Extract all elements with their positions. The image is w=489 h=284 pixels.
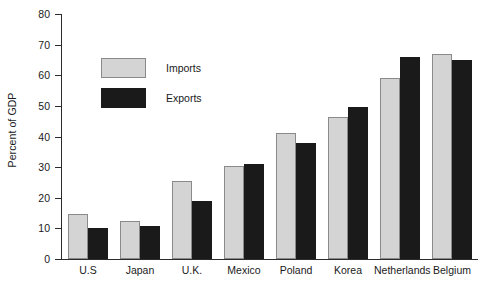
bar-imports-japan — [120, 221, 140, 259]
bar-group — [270, 14, 322, 259]
y-axis-tick-label-text: 70 — [24, 40, 50, 50]
x-axis-label-poland: Poland — [270, 264, 322, 276]
y-axis-tick — [55, 259, 61, 260]
y-axis-tick-label: 70 — [24, 40, 50, 50]
y-axis-tick — [55, 14, 61, 15]
bar-exports-japan — [140, 226, 160, 259]
legend-label-imports: Imports — [166, 62, 201, 74]
y-axis-tick-label-text: 40 — [24, 132, 50, 142]
x-axis-label-netherlands: Netherlands — [374, 264, 426, 276]
plot-area — [62, 14, 478, 259]
x-axis-label-uk: U.K. — [166, 264, 218, 276]
y-axis-tick — [55, 45, 61, 46]
x-axis-line — [61, 259, 478, 260]
y-axis-tick-label: 10 — [24, 223, 50, 233]
legend-item-imports: Imports — [101, 58, 201, 78]
bar-group — [322, 14, 374, 259]
y-axis-tick-label-text: 30 — [24, 162, 50, 172]
bar-exports-poland — [296, 143, 316, 259]
bar-imports-poland — [276, 133, 296, 259]
bar-imports-mexico — [224, 166, 244, 259]
bar-group — [166, 14, 218, 259]
y-axis-tick-label: 80 — [24, 9, 50, 19]
y-axis-tick-label: 20 — [24, 193, 50, 203]
bar-group — [62, 14, 114, 259]
exports-swatch-icon — [101, 88, 146, 108]
bar-group — [218, 14, 270, 259]
x-axis-label-us: U.S — [62, 264, 114, 276]
y-axis-tick — [55, 106, 61, 107]
y-axis-tick — [55, 198, 61, 199]
y-axis-tick-label-text: 20 — [24, 193, 50, 203]
y-axis-tick — [55, 137, 61, 138]
y-axis-tick-label-text: 50 — [24, 101, 50, 111]
y-axis-tick-label: 0 — [24, 254, 50, 264]
x-axis-label-belgium: Belgium — [426, 264, 478, 276]
y-axis-tick-label: 30 — [24, 162, 50, 172]
bar-exports-korea — [348, 107, 368, 259]
x-axis-label-mexico: Mexico — [218, 264, 270, 276]
y-axis-tick-label-text: 0 — [24, 254, 50, 264]
y-axis-tick — [55, 167, 61, 168]
y-axis-title: Percent of GDP — [2, 0, 22, 259]
legend-item-exports: Exports — [101, 88, 202, 108]
y-axis-tick — [55, 228, 61, 229]
x-axis-label-japan: Japan — [114, 264, 166, 276]
bar-exports-netherlands — [400, 57, 420, 259]
y-axis-tick-label: 60 — [24, 70, 50, 80]
bar-group — [114, 14, 166, 259]
bar-imports-korea — [328, 117, 348, 259]
bar-exports-mexico — [244, 164, 264, 259]
bar-imports-us — [68, 214, 88, 259]
bar-imports-belgium — [432, 54, 452, 259]
bar-imports-uk — [172, 181, 192, 259]
y-axis-title-text: Percent of GDP — [6, 92, 18, 167]
bar-exports-us — [88, 228, 108, 259]
y-axis-tick-label: 50 — [24, 101, 50, 111]
y-axis-tick — [55, 75, 61, 76]
bar-imports-netherlands — [380, 78, 400, 259]
bar-group — [374, 14, 426, 259]
bar-exports-uk — [192, 201, 212, 259]
legend-label-exports: Exports — [166, 92, 202, 104]
y-axis-tick-label-text: 10 — [24, 223, 50, 233]
bar-chart: Percent of GDP 01020304050607080 U.SJapa… — [0, 0, 489, 284]
y-axis-tick-label-text: 60 — [24, 70, 50, 80]
imports-swatch-icon — [101, 58, 146, 78]
bar-group — [426, 14, 478, 259]
y-axis-tick-label-text: 80 — [24, 9, 50, 19]
y-axis-tick-label: 40 — [24, 132, 50, 142]
bar-exports-belgium — [452, 60, 472, 259]
x-axis-label-korea: Korea — [322, 264, 374, 276]
